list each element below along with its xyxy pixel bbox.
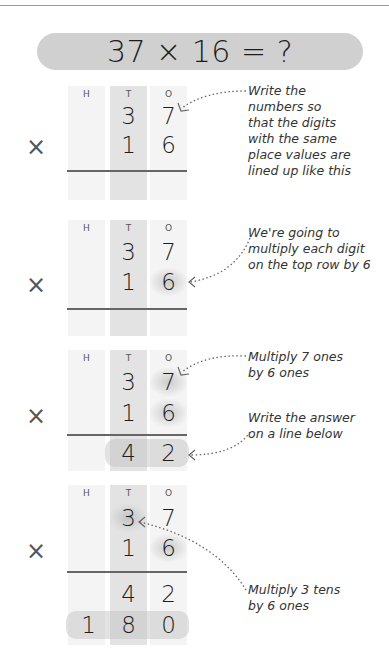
annotation: Multiply 7 ones by 6 ones [248, 349, 343, 381]
annotation: Write the numbers so that the digits wit… [248, 83, 351, 179]
annotation: Multiply 3 tens by 6 ones [248, 582, 340, 614]
dotted-arrow-icon [0, 485, 389, 650]
top-rule [0, 5, 389, 6]
step-3: H T O 7 3 1 6 × 4 2 Multiply 7 ones by 6… [0, 350, 389, 475]
step-4: H T O 3 7 1 6 × 4 2 1 8 0 Multiply 3 ten… [0, 485, 389, 650]
step-1: H T O 3 7 1 6 × Write the numbers so tha… [0, 86, 389, 206]
step-2: H T O 3 7 1 6 × We're going to multiply … [0, 220, 389, 340]
annotation: We're going to multiply each digit on th… [248, 225, 371, 273]
annotation: Write the answer on a line below [248, 410, 355, 442]
page-title: 37 × 16 = ? [37, 33, 363, 70]
